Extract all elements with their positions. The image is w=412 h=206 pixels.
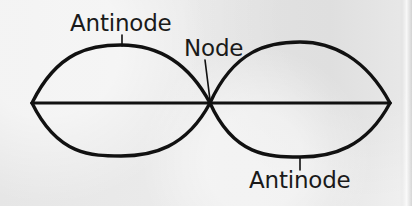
node-label: Node — [184, 37, 243, 60]
lower-envelope-curve — [32, 103, 390, 157]
antinode-top-label: Antinode — [70, 12, 172, 35]
antinode-bottom-label: Antinode — [249, 169, 351, 192]
standing-wave-diagram: Antinode Node Antinode — [0, 0, 412, 206]
